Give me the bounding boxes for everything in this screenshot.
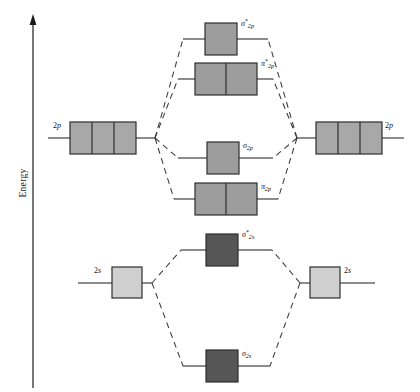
ao-right-2s [300,267,375,298]
dash-right-to-pi-star-2p [273,79,297,138]
label-ao-left-2p: 2p [53,122,61,130]
label-sigma-2s-sub: 2s [246,352,252,359]
ao-left-2s [78,267,152,298]
dash-right-to-sigma-2s [270,283,300,366]
label-pi-2p: π2p [261,183,271,191]
ao-right-2p-box-group [316,122,382,154]
label-sigma-star-2p-sub: 2p [248,22,254,29]
label-ao-right-2p: 2p [385,122,393,130]
label-pi-star-2p-sub: 2p [268,62,274,69]
ao-left-2s-box [112,267,142,298]
mo-sigma-star-2p-box [205,23,237,55]
label-sigma-2p: σ2p [243,142,253,150]
dash-left-to-sigma-star-2p [155,39,183,138]
label-ao-right-2p-subshell: p [389,121,393,130]
label-ao-right-2s-subshell: s [348,266,351,275]
label-ao-left-2s-subshell: s [98,266,101,275]
label-sigma-2s: σ2s [242,350,251,358]
mo-sigma-star-2s-box [206,234,238,266]
ao-left-2p-box-group [70,122,136,154]
dash-right-to-sigma-star-2s [272,250,300,283]
mo-pi-star-2p [178,63,273,95]
dash-left-to-pi-star-2p [155,79,178,138]
label-ao-right-2s: 2s [344,267,351,275]
dash-left-to-pi-2p [155,138,174,199]
mo-sigma-star-2s [181,234,272,266]
label-sigma-star-2s: σ*2s [242,231,255,239]
correlation-lines-2s [152,250,300,366]
label-pi-star-2p: π*2p [261,60,274,68]
dash-right-to-sigma-star-2p [268,39,297,138]
label-sigma-2p-sub: 2p [247,144,253,151]
label-ao-left-2s: 2s [94,267,101,275]
energy-axis-label: Energy [18,153,28,213]
dash-right-to-pi-2p [278,138,297,199]
mo-diagram-svg [0,0,420,392]
label-sigma-star-2p: σ*2p [241,20,254,28]
dash-left-to-sigma-star-2s [152,250,181,283]
mo-diagram-canvas: Energy σ*2p π*2p σ2p π2p σ*2s σ2s 2p 2p … [0,0,420,392]
energy-axis-arrowhead [30,14,37,25]
dash-left-to-sigma-2s [152,283,183,366]
label-sigma-star-2s-sub: 2s [249,233,255,240]
mo-sigma-2s [183,350,270,382]
label-pi-2p-sub: 2p [265,185,271,192]
mo-sigma-2p [178,142,273,174]
mo-sigma-2s-box [206,350,238,382]
energy-axis [30,14,37,388]
mo-sigma-2p-box [207,142,239,174]
ao-left-2p [48,122,155,154]
label-ao-left-2p-subshell: p [57,121,61,130]
ao-right-2s-box [310,267,340,298]
mo-sigma-star-2p [183,23,268,55]
